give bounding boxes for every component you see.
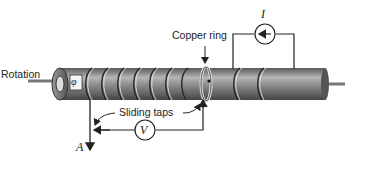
current-symbol: I — [261, 8, 265, 20]
axis-a-label: A — [76, 141, 83, 153]
sliding-taps-label: Sliding taps — [119, 107, 173, 118]
voltmeter-symbol: V — [140, 124, 147, 136]
apparatus-diagram — [0, 0, 365, 175]
cylinder — [52, 68, 329, 100]
sliding-taps-pointer-right — [183, 104, 200, 113]
rotation-label: Rotation — [1, 69, 40, 80]
sliding-taps-pointer-left — [95, 113, 115, 125]
angle-phi-label: φ — [71, 77, 77, 87]
copper-ring-label: Copper ring — [172, 30, 227, 41]
